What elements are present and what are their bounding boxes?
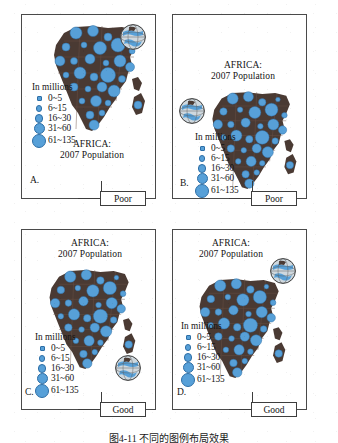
legend-swatch [180,373,196,387]
legend-row: 16~30 [194,163,239,173]
legend-b: In millions 0~5 6~15 16~30 31~60 [194,133,239,197]
legend-swatch [34,373,50,384]
legend-label: 0~5 [196,333,211,342]
legend-swatch [194,173,210,184]
legend-label: 6~15 [47,104,67,113]
rating-tag-a[interactable]: Poor [100,191,146,206]
legend-label: 61~135 [196,375,225,384]
legend-swatch [180,344,196,351]
legend-row: 0~5 [31,93,76,103]
legend-row: 31~60 [34,373,79,384]
legend-label: 0~5 [210,144,225,153]
legend-row: 31~60 [180,362,225,373]
legend-label: 6~15 [210,154,230,163]
map-title-b: AFRICA: 2007 Population [191,60,295,81]
legend-swatch [31,114,47,123]
legend-label: 31~60 [47,124,71,133]
legend-title: In millions [34,333,79,342]
legend-row: 6~15 [180,342,225,352]
map-title-line1: AFRICA: [191,60,295,71]
legend-swatch [194,155,210,162]
legend-row: 61~135 [34,384,79,397]
tag-leader-b2 [229,198,253,199]
legend-row: 6~15 [34,353,79,363]
legend-label: 61~135 [50,386,79,395]
legend-swatch [180,353,196,362]
legend-row: 31~60 [194,173,239,184]
panel-a: In millions 0~5 6~15 16~30 31~60 [21,14,156,199]
legend-swatch [31,96,47,101]
legend-c: In millions 0~5 6~15 16~30 31~60 [34,333,79,397]
legend-label: 0~5 [50,344,65,353]
legend-row: 0~5 [194,143,239,153]
legend-row: 6~15 [194,153,239,163]
legend-swatch [31,105,47,112]
rating-tag-b[interactable]: Poor [251,191,297,206]
legend-a: In millions 0~5 6~15 16~30 31~60 [31,83,76,147]
map-title-c: AFRICA: 2007 Population [38,238,142,259]
globe-inset-icon [178,97,206,125]
legend-label: 16~30 [47,114,71,123]
panel-a-content: In millions 0~5 6~15 16~30 31~60 [22,15,155,198]
panel-c: AFRICA: 2007 Population [21,229,156,410]
legend-row: 31~60 [31,123,76,134]
rating-tag-d[interactable]: Good [251,402,297,417]
legend-swatch [34,364,50,373]
tag-leader-d2 [229,409,253,410]
tag-leader-c2 [78,409,102,410]
tag-leader-a2 [78,198,102,199]
panel-letter-a: A. [30,175,39,185]
legend-label: 31~60 [210,174,234,183]
legend-d: In millions 0~5 6~15 16~30 31~60 [180,322,225,386]
legend-row: 6~15 [31,103,76,113]
legend-row: 16~30 [180,352,225,362]
panel-b-content: AFRICA: 2007 Population [173,15,306,198]
legend-label: 16~30 [210,164,234,173]
globe-inset-icon [119,23,147,51]
panel-letter-c: C. [25,387,34,397]
legend-title: In millions [31,83,76,92]
legend-swatch [180,335,196,340]
legend-label: 31~60 [50,374,74,383]
legend-swatch [194,146,210,151]
map-title-line2: 2007 Population [38,249,142,260]
legend-label: 31~60 [196,363,220,372]
legend-swatch [34,346,50,351]
legend-swatch [34,384,50,398]
map-title-a: AFRICA: 2007 Population [44,139,140,160]
legend-title: In millions [194,133,239,142]
legend-row: 0~5 [180,332,225,342]
legend-title: In millions [180,322,225,331]
map-title-line1: AFRICA: [38,238,142,249]
rating-tag-c[interactable]: Good [100,402,146,417]
legend-row: 16~30 [34,363,79,373]
panel-letter-d: D. [177,387,186,397]
legend-swatch [180,362,196,373]
legend-swatch [34,355,50,362]
legend-label: 61~135 [210,186,239,195]
panel-letter-b: B. [180,178,189,188]
map-title-line2: 2007 Population [44,150,140,161]
panel-c-content: AFRICA: 2007 Population [22,230,155,409]
legend-row: 61~135 [194,184,239,197]
map-title-line1: AFRICA: [183,238,279,249]
legend-label: 6~15 [50,354,70,363]
panel-d-content: AFRICA: 2007 Population [173,230,306,409]
map-title-d: AFRICA: 2007 Population [183,238,279,259]
map-title-line2: 2007 Population [183,249,279,260]
legend-row: 0~5 [34,343,79,353]
map-title-line2: 2007 Population [191,71,295,82]
figure-container: In millions 0~5 6~15 16~30 31~60 [0,0,338,443]
panel-d: AFRICA: 2007 Population [172,229,307,410]
legend-label: 16~30 [196,353,220,362]
panel-b: AFRICA: 2007 Population [172,14,307,199]
legend-label: 0~5 [47,94,62,103]
legend-label: 6~15 [196,343,216,352]
legend-swatch [194,184,210,198]
globe-inset-icon [114,354,142,382]
legend-label: 16~30 [50,364,74,373]
map-title-line1: AFRICA: [44,139,140,150]
legend-swatch [31,123,47,134]
figure-caption: 图4-11 不同的图例布局效果 [0,430,338,443]
legend-row: 61~135 [180,373,225,386]
